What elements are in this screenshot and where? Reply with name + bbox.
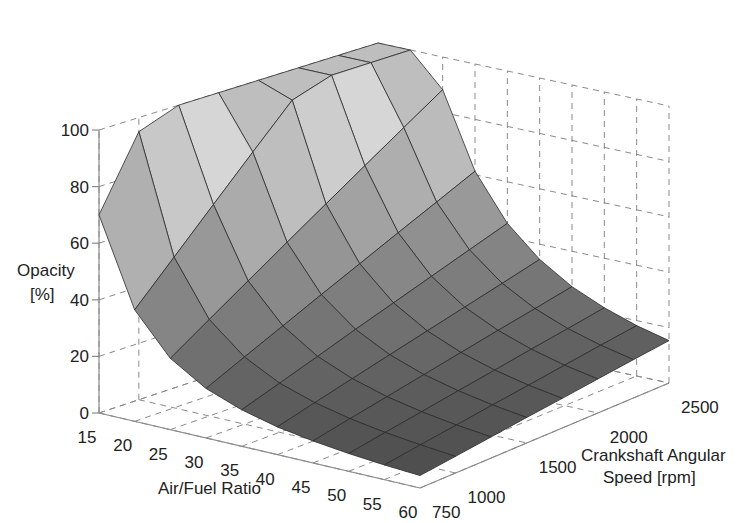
x-tick-label: 35 xyxy=(220,461,239,480)
x-tick-label: 55 xyxy=(363,495,382,514)
x-tick-label: 15 xyxy=(78,428,97,447)
x-axis-label: Air/Fuel Ratio xyxy=(158,479,261,498)
y-tick-label: 2500 xyxy=(681,398,719,417)
y-tick-label: 2000 xyxy=(610,428,648,447)
y-axis-label-line1: Crankshaft Angular xyxy=(581,446,726,465)
y-tick-label: 1500 xyxy=(539,458,577,477)
x-tick-label: 50 xyxy=(327,486,346,505)
z-axis-label-line1: Opacity xyxy=(17,261,75,280)
y-axis-label-line2: Speed [rpm] xyxy=(603,468,696,487)
x-tick-label: 30 xyxy=(185,453,204,472)
z-tick-label: 20 xyxy=(70,347,89,366)
z-tick-label: 100 xyxy=(61,121,89,140)
y-tick-label: 750 xyxy=(432,503,460,522)
z-tick-label: 80 xyxy=(70,178,89,197)
x-tick-label: 20 xyxy=(113,436,132,455)
y-tick-label: 1000 xyxy=(468,488,506,507)
surface-plot: 0204060801001520253035404550556075010001… xyxy=(0,0,741,523)
z-tick-label: 40 xyxy=(70,291,89,310)
x-tick-label: 25 xyxy=(149,445,168,464)
x-tick-label: 45 xyxy=(292,478,311,497)
z-tick-label: 60 xyxy=(70,234,89,253)
x-tick-label: 60 xyxy=(399,503,418,522)
z-tick-label: 0 xyxy=(80,404,89,423)
z-axis-label-line2: [%] xyxy=(30,285,55,304)
